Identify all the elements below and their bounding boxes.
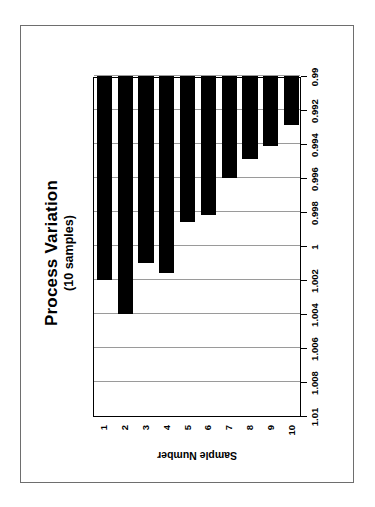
value-axis-tick-label: 1 [309, 244, 320, 249]
plot-area [93, 77, 301, 417]
value-axis-ticks [301, 77, 307, 417]
axis-tick [301, 144, 307, 145]
bar-chart: Process Variation (10 samples) 1.011.008… [37, 43, 337, 463]
bar [242, 76, 257, 159]
bar [284, 76, 299, 125]
category-axis-tick-label: 7 [223, 425, 234, 430]
category-axis-tick-label: 3 [140, 425, 151, 430]
bar [118, 76, 133, 314]
value-axis-tick-label: 0.994 [309, 133, 320, 157]
axis-tick [301, 212, 307, 213]
bar-series [94, 78, 300, 416]
bar [138, 76, 153, 263]
axis-tick [301, 382, 307, 383]
value-axis-tick-label: 1.008 [309, 371, 320, 395]
bar [201, 76, 216, 215]
category-axis-tick-label: 10 [285, 425, 296, 436]
value-axis-tick-label: 1.004 [309, 303, 320, 327]
axis-tick [301, 416, 307, 417]
axis-tick [301, 314, 307, 315]
bar [97, 76, 112, 280]
axis-tick [301, 246, 307, 247]
chart-subtitle: (10 samples) [62, 43, 77, 463]
category-axis-tick-label: 5 [181, 425, 192, 430]
axis-tick [301, 178, 307, 179]
bar [222, 76, 237, 178]
bar [180, 76, 195, 222]
category-axis-tick-label: 6 [202, 425, 213, 430]
category-axis-tick-label: 8 [244, 425, 255, 430]
value-axis-tick-label: 1.002 [309, 269, 320, 293]
value-axis-labels: 1.011.0081.0061.0041.00210.9980.9960.994… [309, 77, 335, 417]
category-axis-tick-label: 2 [119, 425, 130, 430]
chart-title-block: Process Variation (10 samples) [43, 43, 77, 463]
value-axis-tick-label: 1.01 [309, 408, 320, 427]
axis-tick [301, 348, 307, 349]
chart-title: Process Variation [43, 43, 61, 463]
category-axis-tick-label: 9 [264, 425, 275, 430]
bar [263, 76, 278, 146]
value-axis-tick-label: 0.992 [309, 99, 320, 123]
category-axis-title: Sample Number [93, 449, 301, 463]
value-axis-tick-label: 0.99 [309, 68, 320, 87]
bar [159, 76, 174, 273]
category-axis-tick-label: 1 [98, 425, 109, 430]
value-axis-tick-label: 0.998 [309, 201, 320, 225]
axis-tick [301, 280, 307, 281]
value-axis-tick-label: 0.996 [309, 167, 320, 191]
value-axis-tick-label: 1.006 [309, 337, 320, 361]
category-axis-tick-label: 4 [160, 425, 171, 430]
axis-tick [301, 110, 307, 111]
chart-page: Process Variation (10 samples) 1.011.008… [0, 0, 375, 507]
axis-tick [301, 76, 307, 77]
